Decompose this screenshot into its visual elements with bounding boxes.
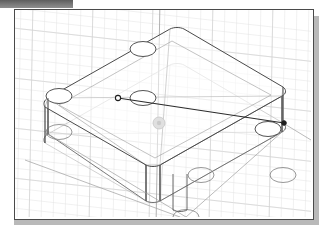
hole-top-right[interactable] [255,122,281,137]
hole-top-left[interactable] [46,89,72,104]
app-root [0,0,323,236]
window-titlebar [0,0,73,8]
hole-top-back[interactable] [130,42,156,57]
sketch-point-start[interactable] [115,95,120,100]
origin-marker[interactable] [153,117,165,129]
cad-canvas[interactable] [15,10,311,217]
cad-viewport[interactable] [14,9,314,220]
sketch-point-end[interactable] [282,121,287,126]
hole-bottom-right[interactable] [270,168,296,183]
